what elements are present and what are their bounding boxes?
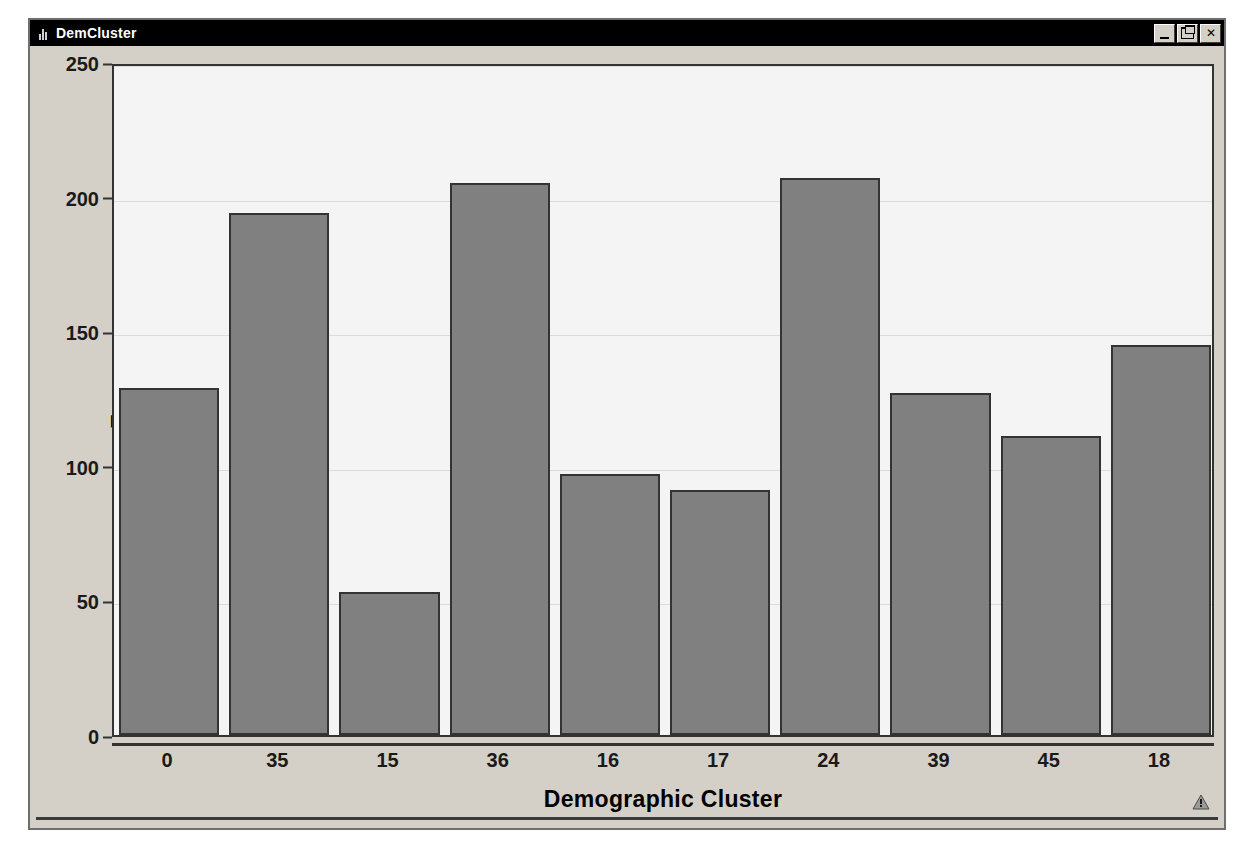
x-axis-ticks: 0351536161724394518	[112, 749, 1214, 779]
y-axis-tick-mark	[103, 63, 112, 65]
bar[interactable]	[229, 213, 329, 735]
window-title: DemCluster	[56, 25, 137, 41]
bar[interactable]	[339, 592, 439, 735]
x-axis-line	[112, 743, 1214, 746]
plot-inner	[114, 66, 1212, 735]
bar[interactable]	[890, 393, 990, 735]
x-axis-tick-label: 17	[707, 749, 729, 772]
y-axis-ticks: 050100150200250	[30, 64, 112, 737]
x-axis-tick-label: 0	[162, 749, 173, 772]
x-axis-tick-label: 15	[376, 749, 398, 772]
x-axis-tick-label: 39	[927, 749, 949, 772]
y-axis-tick-label: 150	[66, 322, 99, 345]
warning-triangle-icon[interactable]	[1192, 794, 1210, 810]
bar[interactable]	[450, 183, 550, 735]
y-axis-tick-mark	[103, 332, 112, 334]
restore-button[interactable]	[1177, 24, 1198, 43]
x-axis-tick-label: 36	[487, 749, 509, 772]
bar[interactable]	[1001, 436, 1101, 735]
x-axis-tick-label: 18	[1148, 749, 1170, 772]
y-axis-tick-mark	[103, 467, 112, 469]
bar[interactable]	[780, 178, 880, 735]
bar-series	[114, 66, 1212, 735]
y-axis-tick-label: 100	[66, 456, 99, 479]
x-axis-tick-label: 35	[266, 749, 288, 772]
bar[interactable]	[1111, 345, 1211, 735]
y-axis-tick: 0	[88, 726, 112, 749]
y-axis-tick-label: 200	[66, 187, 99, 210]
bar[interactable]	[560, 474, 660, 735]
y-axis-tick-label: 50	[77, 591, 99, 614]
chart-window: DemCluster ✕ Frequency 050100150200250 0…	[28, 18, 1226, 830]
x-axis-tick-label: 24	[817, 749, 839, 772]
y-axis-tick-label: 0	[88, 726, 99, 749]
y-axis-tick-mark	[103, 736, 112, 738]
bar[interactable]	[119, 388, 219, 735]
window-titlebar[interactable]: DemCluster ✕	[30, 20, 1224, 46]
y-axis-tick-label: 250	[66, 53, 99, 76]
bar[interactable]	[670, 490, 770, 735]
window-controls: ✕	[1154, 24, 1221, 43]
y-axis-tick: 200	[66, 187, 112, 210]
y-axis-tick: 50	[77, 591, 112, 614]
minimize-button[interactable]	[1154, 24, 1175, 43]
y-axis-tick: 150	[66, 322, 112, 345]
chart-canvas: Frequency 050100150200250 03515361617243…	[30, 46, 1224, 828]
y-axis-tick-mark	[103, 601, 112, 603]
y-axis-tick-mark	[103, 198, 112, 200]
x-axis-tick-label: 16	[597, 749, 619, 772]
x-axis-title: Demographic Cluster	[112, 786, 1214, 813]
y-axis-tick: 250	[66, 53, 112, 76]
plot-area	[112, 64, 1214, 737]
bottom-divider	[36, 817, 1218, 820]
bar-chart-icon	[36, 26, 50, 40]
x-axis-tick-label: 45	[1038, 749, 1060, 772]
y-axis-tick: 100	[66, 456, 112, 479]
close-button[interactable]: ✕	[1200, 24, 1221, 43]
